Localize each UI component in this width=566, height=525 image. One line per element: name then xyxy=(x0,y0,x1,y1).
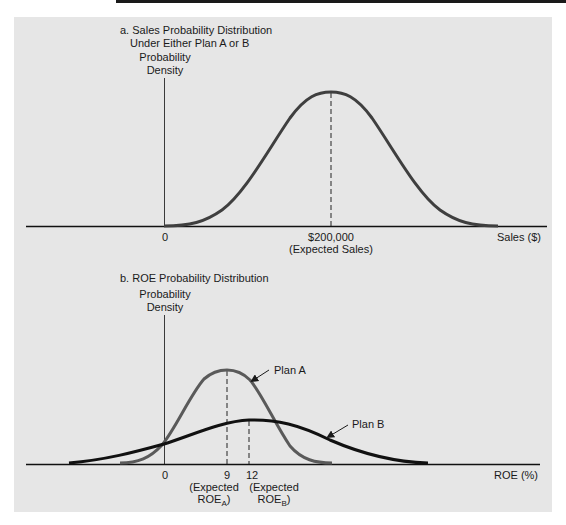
chart-roe-distribution: b. ROE Probability Distribution Probabil… xyxy=(26,272,540,508)
panel-b-tick-0: 0 xyxy=(162,469,168,481)
panel-b-xlabel: ROE (%) xyxy=(494,469,538,481)
plan-b-label: Plan B xyxy=(352,418,384,430)
panel-a-title: a. Sales Probability Distribution xyxy=(120,24,272,36)
panel-b-title: b. ROE Probability Distribution xyxy=(120,272,269,284)
panel-b-ylabel-1: Probability xyxy=(139,288,191,300)
panel-b-ylabel-2: Density xyxy=(147,301,184,313)
plan-a-label: Plan A xyxy=(274,364,306,376)
panel-a-xlabel: Sales ($) xyxy=(497,231,541,243)
chart-sales-distribution: a. Sales Probability Distribution Under … xyxy=(26,24,547,255)
plan-a-arrow-icon xyxy=(252,370,269,381)
roe-b-note-line1: (Expected xyxy=(249,481,299,493)
roe-a-note-line2: ROEA) xyxy=(198,493,231,508)
panel-b-tick-9: 9 xyxy=(224,469,230,481)
panel-a-ylabel-1: Probability xyxy=(139,51,191,63)
panel-a-mean-note: (Expected Sales) xyxy=(289,243,373,255)
plan-b-arrow-icon xyxy=(328,425,348,437)
roe-b-note-line2: ROEB) xyxy=(258,493,291,508)
panel-a-ylabel-2: Density xyxy=(147,64,184,76)
figure-svg: a. Sales Probability Distribution Under … xyxy=(0,0,566,525)
panel-a-subtitle: Under Either Plan A or B xyxy=(130,37,249,49)
panel-a-tick-0: 0 xyxy=(162,231,168,243)
plan-a-curve xyxy=(120,370,332,463)
panel-b-tick-12: 12 xyxy=(246,469,258,481)
roe-a-note-line1: (Expected xyxy=(189,481,239,493)
panel-a-tick-mean: $200,000 xyxy=(308,231,354,243)
